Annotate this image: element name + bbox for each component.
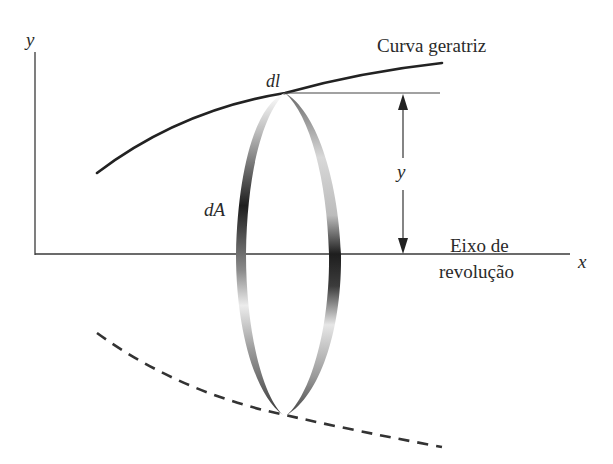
x-axis-label: x xyxy=(578,252,586,271)
arrow-down-icon xyxy=(398,238,408,254)
dA-label: dA xyxy=(204,200,225,219)
y-dimension-label: y xyxy=(397,162,405,181)
arrow-up-icon xyxy=(398,94,408,110)
curve-label: Curva geratriz xyxy=(377,36,486,55)
mirrored-dashed-curve xyxy=(97,333,442,447)
axis-of-revolution-label-line2: revolução xyxy=(439,262,514,281)
axis-of-revolution-label-line1: Eixo de xyxy=(450,236,509,255)
y-axis-label: y xyxy=(26,30,34,49)
dl-label: dl xyxy=(266,72,280,90)
surface-of-revolution-diagram xyxy=(0,0,613,464)
